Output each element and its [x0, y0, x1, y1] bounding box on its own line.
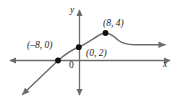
point-marker-8-4 [103, 30, 109, 36]
point-label-8-4: (8, 4) [103, 19, 124, 29]
point-label-neg8-0: (–8, 0) [27, 41, 52, 51]
origin-label: 0 [69, 61, 74, 71]
y-axis-label: y [70, 6, 74, 16]
x-axis-label: x [163, 60, 167, 70]
point-marker-neg8-0 [55, 58, 61, 64]
point-marker-0-2 [76, 44, 82, 50]
graph-figure: (–8, 0) (0, 2) (8, 4) y x 0 [0, 0, 177, 102]
point-label-0-2: (0, 2) [86, 49, 107, 59]
